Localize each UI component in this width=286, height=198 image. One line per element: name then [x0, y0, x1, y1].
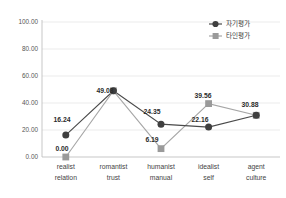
x-axis-label-2-line1: romantist — [99, 163, 127, 170]
data-point-label: 30.88 — [241, 101, 258, 108]
line-chart: 0.00 20.00 40.00 60.00 80.00 100.00 16.2… — [0, 0, 286, 198]
y-tick-60: 60.00 — [22, 72, 38, 79]
legend-marker-circle-icon — [212, 21, 218, 27]
x-axis-label-3-line1: humanist — [147, 163, 175, 170]
x-axis-label-3-line2: manual — [150, 174, 173, 181]
legend-marker-square-icon — [213, 33, 219, 39]
chart-container: 0.00 20.00 40.00 60.00 80.00 100.00 16.2… — [0, 0, 286, 198]
legend-label-self-evaluation: 자기평가 — [226, 19, 250, 28]
data-point-marker — [205, 100, 212, 107]
data-point-label: 24.35 — [143, 108, 160, 115]
x-axis-label-5-line2: culture — [246, 174, 267, 181]
y-tick-100: 100.00 — [18, 18, 38, 25]
data-point-label: 22.16 — [191, 116, 208, 123]
data-point-marker — [158, 145, 165, 152]
data-point-label: 0.00 — [55, 145, 68, 152]
x-axis-label-2-line2: trust — [107, 174, 120, 181]
x-axis-label-5-line1: agent — [248, 163, 265, 171]
x-axis-label-4-line1: idealist — [198, 163, 219, 170]
data-point-marker — [253, 112, 260, 119]
y-tick-0: 0.00 — [26, 153, 39, 160]
y-axis-tick-labels: 0.00 20.00 40.00 60.00 80.00 100.00 — [18, 18, 38, 160]
legend-label-other-evaluation: 타인평가 — [226, 31, 250, 40]
data-point-label: 6.19 — [145, 136, 158, 143]
x-axis-category-labels: realistrelationromantisttrusthumanistman… — [55, 163, 267, 181]
x-axis-label-4-line2: self — [203, 174, 214, 181]
y-tick-20: 20.00 — [22, 126, 38, 133]
plot-area — [42, 20, 280, 157]
x-axis-label-1-line1: realist — [57, 163, 75, 170]
data-point-marker — [62, 132, 69, 139]
y-tick-40: 40.00 — [22, 99, 38, 106]
data-point-label: 49.03 — [96, 87, 113, 94]
data-point-label: 39.56 — [194, 92, 211, 99]
y-tick-80: 80.00 — [22, 45, 38, 52]
data-point-marker — [62, 154, 69, 161]
data-point-label: 16.24 — [53, 116, 70, 123]
x-axis-label-1-line2: relation — [55, 174, 78, 181]
data-point-marker — [205, 124, 212, 131]
data-point-marker — [158, 121, 165, 128]
